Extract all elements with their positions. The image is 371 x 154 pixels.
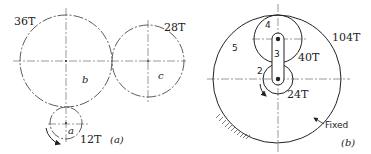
gear-a-label: a <box>68 125 74 136</box>
figure-b-caption: (b) <box>341 137 355 148</box>
gear-b-center <box>65 60 67 62</box>
arm-3-label: 3 <box>274 49 280 59</box>
figure-b: 4 3 2 5 104T 40T 24T Fixed (b) <box>207 4 361 152</box>
arm-pivot-top <box>276 37 280 41</box>
fixed-ground-hatch-icon <box>216 114 250 139</box>
ring-5-teeth-label: 104T <box>332 31 361 44</box>
gear-train-diagram: 36T b 28T c a 12T (a) <box>0 0 371 154</box>
figure-a: 36T b 28T c a 12T (a) <box>13 8 186 146</box>
gear-4-label: 4 <box>265 20 271 30</box>
fixed-leader-arrow <box>314 118 324 124</box>
fixed-label: Fixed <box>325 120 348 130</box>
gear-2-label: 2 <box>257 66 263 76</box>
rotation-arrow-icon <box>46 128 60 144</box>
figure-a-caption: (a) <box>110 134 124 145</box>
gear-b-label: b <box>82 74 88 85</box>
gear-c-center <box>147 60 149 62</box>
gear-2-teeth-label: 24T <box>287 88 309 101</box>
gear-4-teeth-label: 40T <box>298 51 320 64</box>
gear-a-teeth-label: 12T <box>80 133 102 146</box>
gear-c-label: c <box>158 70 164 81</box>
arm-pivot-bottom <box>276 77 280 81</box>
gear-b-teeth-label: 36T <box>14 15 36 28</box>
gear-a-center <box>65 122 67 124</box>
ring-5-label: 5 <box>232 43 238 53</box>
gear-c-teeth-label: 28T <box>164 21 186 34</box>
